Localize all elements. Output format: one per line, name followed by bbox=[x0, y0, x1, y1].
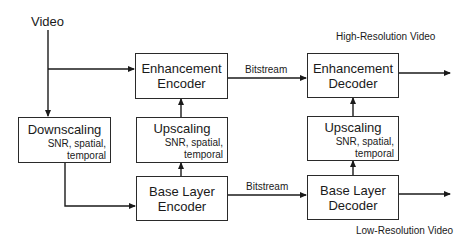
enh-encoder-line2: Encoder bbox=[136, 76, 227, 91]
enh-decoder-line1: Enhancement bbox=[308, 61, 398, 76]
upscaling-encoder-block: Upscaling SNR, spatial, temporal bbox=[136, 117, 228, 163]
enh-decoder-line2: Decoder bbox=[308, 76, 398, 91]
enhancement-encoder-block: Enhancement Encoder bbox=[135, 53, 228, 99]
upscaling-enc-sub2: temporal bbox=[184, 149, 223, 161]
base-layer-decoder-block: Base Layer Decoder bbox=[307, 175, 399, 220]
downscaling-block: Downscaling SNR, spatial, temporal bbox=[18, 117, 111, 163]
enh-encoder-line1: Enhancement bbox=[136, 61, 227, 76]
base-encoder-line1: Base Layer bbox=[137, 184, 227, 199]
bitstream-top-label: Bitstream bbox=[245, 64, 287, 75]
upscaling-enc-sub1: SNR, spatial, bbox=[165, 137, 223, 149]
upscaling-enc-title: Upscaling bbox=[137, 121, 227, 136]
video-input-label: Video bbox=[31, 14, 64, 29]
upscaling-decoder-block: Upscaling SNR, spatial, temporal bbox=[307, 116, 399, 161]
downscaling-sub1: SNR, spatial, bbox=[48, 138, 106, 150]
bitstream-bottom-label: Bitstream bbox=[246, 181, 288, 192]
upscaling-dec-title: Upscaling bbox=[308, 120, 398, 135]
enhancement-decoder-block: Enhancement Decoder bbox=[307, 53, 399, 98]
upscaling-dec-sub2: temporal bbox=[355, 148, 394, 160]
base-decoder-line2: Decoder bbox=[308, 198, 398, 213]
base-encoder-line2: Encoder bbox=[137, 199, 227, 214]
base-layer-encoder-block: Base Layer Encoder bbox=[136, 176, 228, 221]
downscaling-title: Downscaling bbox=[19, 122, 110, 137]
low-resolution-output-label: Low-Resolution Video bbox=[356, 225, 453, 236]
base-decoder-line1: Base Layer bbox=[308, 183, 398, 198]
downscaling-sub2: temporal bbox=[67, 150, 106, 162]
high-resolution-output-label: High-Resolution Video bbox=[336, 31, 435, 42]
upscaling-dec-sub1: SNR, spatial, bbox=[336, 136, 394, 148]
